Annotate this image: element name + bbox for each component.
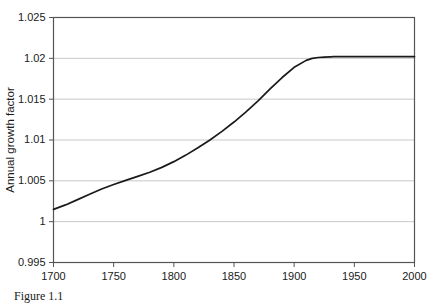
x-tick-label: 1800 [162, 270, 186, 282]
y-tick-label: 1.02 [24, 52, 45, 64]
y-axis-title: Annual growth factor [4, 87, 16, 193]
y-tick-label: 1.01 [24, 133, 45, 145]
x-tick-label: 2000 [402, 270, 426, 282]
svg-text:Annual growth factor: Annual growth factor [4, 87, 16, 193]
y-tick-label: 1.015 [18, 93, 46, 105]
y-tick-label: 1.025 [18, 11, 46, 23]
y-tick-label: 0.995 [18, 256, 46, 268]
x-tick-label: 1950 [342, 270, 366, 282]
y-tick-label: 1 [39, 215, 45, 227]
x-axis-ticks: 1700175018001850190019502000 [41, 263, 426, 282]
figure-caption: Figure 1.1 [14, 289, 63, 304]
x-tick-label: 1750 [101, 270, 125, 282]
x-tick-label: 1900 [282, 270, 306, 282]
x-tick-label: 1700 [41, 270, 65, 282]
y-tick-label: 1.005 [18, 174, 46, 186]
x-tick-label: 1850 [222, 270, 246, 282]
y-axis-ticks: 0.99511.0051.011.0151.021.025 [18, 11, 54, 268]
